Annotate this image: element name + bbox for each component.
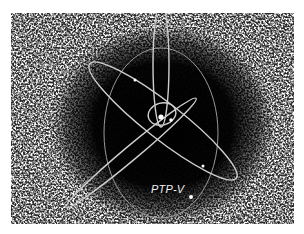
figure-label: PTP-V [151,183,184,195]
microscopy-image: PTP-V [11,13,294,224]
